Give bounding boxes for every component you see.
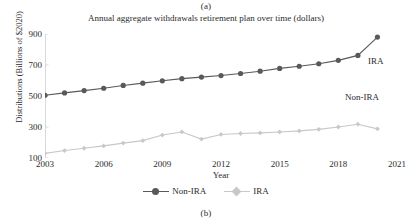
series-marker bbox=[121, 83, 126, 88]
series-marker bbox=[375, 35, 380, 40]
series-marker bbox=[297, 64, 302, 69]
series-marker bbox=[238, 131, 243, 136]
chart-title: Annual aggregate withdrawals retirement … bbox=[0, 13, 412, 23]
x-tick-label: 2012 bbox=[212, 159, 230, 169]
series-marker bbox=[45, 93, 48, 98]
series-marker bbox=[336, 58, 341, 63]
series-marker bbox=[258, 69, 263, 74]
series-marker bbox=[82, 146, 87, 151]
figure-caption-a: (a) bbox=[0, 1, 412, 11]
series-marker bbox=[375, 126, 380, 131]
series-marker bbox=[160, 133, 165, 138]
series-marker bbox=[101, 144, 106, 149]
series-marker bbox=[62, 148, 67, 153]
series-marker bbox=[101, 86, 106, 91]
series-marker bbox=[121, 141, 126, 146]
series-marker bbox=[316, 127, 321, 132]
legend-label: IRA bbox=[253, 186, 269, 196]
figure-container: (a) Annual aggregate withdrawals retirem… bbox=[0, 0, 412, 224]
series-marker bbox=[45, 151, 47, 156]
chart-legend: Non-IRAIRA bbox=[0, 186, 412, 196]
x-tick-label: 2021 bbox=[388, 159, 406, 169]
x-tick-label: 2018 bbox=[329, 159, 347, 169]
y-tick-label: 300 bbox=[29, 122, 43, 132]
series-marker bbox=[160, 78, 165, 83]
series-marker bbox=[218, 73, 223, 78]
x-tick-label: 2003 bbox=[36, 159, 54, 169]
series-marker bbox=[355, 122, 360, 127]
x-axis-label: Year bbox=[45, 170, 397, 180]
legend-item[interactable]: IRA bbox=[224, 186, 269, 196]
legend-diamond-icon bbox=[224, 187, 250, 196]
series-marker bbox=[258, 130, 263, 135]
series-annotation: IRA bbox=[368, 56, 384, 66]
series-marker bbox=[219, 132, 224, 137]
x-tick-label: 2009 bbox=[153, 159, 171, 169]
series-marker bbox=[238, 71, 243, 76]
series-marker bbox=[277, 66, 282, 71]
series-marker bbox=[179, 130, 184, 135]
series-marker bbox=[355, 53, 360, 58]
series-annotation: Non-IRA bbox=[345, 92, 379, 102]
series-marker bbox=[297, 128, 302, 133]
series-marker bbox=[140, 81, 145, 86]
y-tick-label: 500 bbox=[29, 91, 43, 101]
y-tick-label: 700 bbox=[29, 60, 43, 70]
series-marker bbox=[140, 138, 145, 143]
x-tick-label: 2006 bbox=[95, 159, 113, 169]
series-marker bbox=[62, 90, 67, 95]
series-marker bbox=[82, 88, 87, 93]
x-tick-label: 2015 bbox=[271, 159, 289, 169]
series-line bbox=[45, 37, 377, 95]
legend-item[interactable]: Non-IRA bbox=[143, 186, 206, 196]
series-marker bbox=[199, 74, 204, 79]
figure-caption-b: (b) bbox=[0, 208, 412, 218]
legend-label: Non-IRA bbox=[172, 186, 206, 196]
series-marker bbox=[199, 137, 204, 142]
series-marker bbox=[316, 61, 321, 66]
legend-circle-icon bbox=[143, 187, 169, 196]
series-marker bbox=[336, 125, 341, 130]
series-marker bbox=[277, 130, 282, 135]
series-line bbox=[45, 124, 377, 153]
y-tick-label: 900 bbox=[29, 29, 43, 39]
series-marker bbox=[179, 76, 184, 81]
series-layer bbox=[45, 35, 380, 156]
